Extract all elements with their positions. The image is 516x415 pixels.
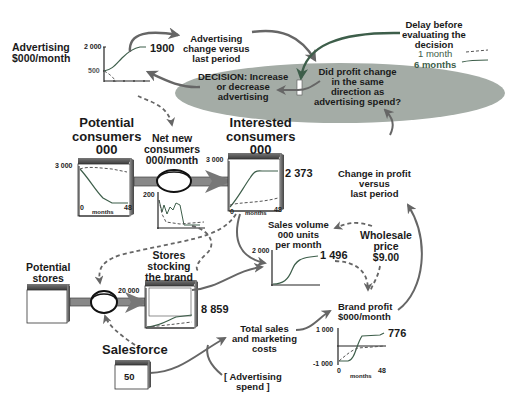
delay-legend-title: Delay before evaluating the decision: [402, 20, 466, 50]
total-costs-line3: costs: [232, 344, 297, 354]
arrow-price-to-sales: [335, 223, 372, 228]
potential-stores-line2: stores: [26, 273, 70, 284]
arrow-sales-to-profit: [335, 261, 368, 290]
salesforce-value: 50: [124, 372, 135, 382]
decision-line3: advertising: [198, 92, 288, 102]
arrow-change-to-evaluation: [252, 31, 315, 60]
potential-consumers-x-max: 48: [124, 204, 132, 211]
arrow-net-new-loop: [192, 226, 211, 272]
legend-item-6-months: 6 months: [414, 60, 456, 70]
arrow-stores-to-sales: [192, 267, 262, 290]
advertising-spend-line2: spend ]: [224, 382, 282, 392]
potential-stores-stock: [27, 284, 70, 323]
brand-profit-y-min: -1 000: [313, 360, 333, 367]
store-flow-pipe: [70, 291, 148, 313]
change-profit-line3: last period: [338, 189, 411, 199]
sales-volume-label: Sales volume 000 units per month: [268, 220, 329, 250]
brand-profit-value: 776: [388, 327, 406, 339]
interested-line3: 000: [226, 143, 295, 157]
potential-stores-label: Potential stores: [26, 262, 70, 284]
interested-x-label: months: [245, 210, 267, 216]
potential-consumers-x-label: months: [92, 209, 114, 215]
wholesale-price-label: Wholesale price $9.00: [360, 230, 412, 263]
interested-consumers-label: Interested consumers 000: [226, 116, 295, 157]
stores-y-max: 20 000: [118, 287, 139, 294]
wholesale-price-value: $9.00: [360, 252, 412, 263]
net-new-consumers-chart: [157, 192, 205, 229]
brand-profit-y-max: 1 000: [316, 326, 334, 333]
evaluation-question: Did profit change in the same direction …: [314, 67, 401, 107]
advertising-change-line3: last period: [183, 54, 250, 64]
interested-consumers-stock: [228, 153, 284, 211]
brand-profit-label: Brand profit $000/month: [338, 302, 392, 322]
stores-value: 8 859: [201, 303, 229, 315]
interested-x-max: 48: [274, 206, 282, 213]
potential-consumers-line3: 000: [72, 143, 141, 157]
consumer-flow-pipe: [134, 170, 232, 193]
advertising-label: Advertising $000/month: [12, 42, 70, 64]
arrow-interested-to-sales: [237, 214, 265, 263]
net-new-consumers-label: Net new consumers 000/month: [144, 133, 200, 166]
stores-line3: the brand: [145, 272, 193, 283]
advertising-value: 1900: [150, 42, 174, 54]
potential-consumers-y-max: 3 000: [55, 162, 73, 169]
brand-profit-x-max: 48: [378, 367, 386, 374]
advertising-y-max: 2 000: [84, 43, 102, 50]
net-new-line3: 000/month: [144, 155, 200, 166]
brand-profit-line2: $000/month: [338, 312, 392, 322]
arrow-adspend-to-costs: [207, 345, 222, 375]
arrow-advertising-to-net-new: [138, 96, 172, 125]
stores-stocking-label: Stores stocking the brand: [145, 250, 193, 283]
interested-line1: Interested: [226, 116, 295, 130]
interested-x-min: 0: [230, 208, 234, 215]
legend-dashed-line: [466, 50, 488, 52]
advertising-y-min: 500: [88, 67, 100, 74]
brand-profit-x-label: months: [350, 373, 372, 379]
potential-consumers-line1: Potential: [72, 116, 141, 130]
salesforce-label: Salesforce: [102, 343, 168, 357]
brand-profit-x-min: 0: [337, 367, 341, 374]
advertising-change-label: Advertising change versus last period: [183, 34, 250, 64]
potential-consumers-x-min: 0: [80, 204, 84, 211]
sales-volume-chart: [271, 250, 320, 286]
net-new-y-max: 200: [143, 191, 155, 198]
stores-stocking-stock: [145, 280, 198, 328]
interested-y-max: 3 000: [206, 156, 224, 163]
legend-solid-line: [462, 60, 488, 62]
advertising-spend-label: [ Advertising spend ]: [224, 372, 282, 392]
brand-profit-chart: [337, 328, 386, 365]
interested-value: 2 373: [285, 167, 313, 179]
advertising-chart: [103, 47, 150, 82]
legend-item-1-month: 1 month: [418, 49, 452, 59]
potential-consumers-label: Potential consumers 000: [72, 116, 141, 157]
sales-volume-y-max: 2 000: [252, 247, 270, 254]
arrow-price-to-profit: [370, 266, 380, 292]
evaluation-line4: advertising spend?: [314, 97, 401, 107]
sales-volume-value: 1 496: [320, 249, 348, 261]
interested-line2: consumers: [226, 130, 295, 144]
total-costs-label: Total sales and marketing costs: [232, 324, 297, 354]
change-in-profit-label: Change in profit versus last period: [338, 169, 411, 199]
potential-consumers-line2: consumers: [72, 130, 141, 144]
arrow-salesforce-to-store-flow: [105, 316, 135, 345]
advertising-label-line2: $000/month: [12, 53, 70, 64]
decision-label: DECISION: Increase or decrease advertisi…: [198, 72, 288, 102]
